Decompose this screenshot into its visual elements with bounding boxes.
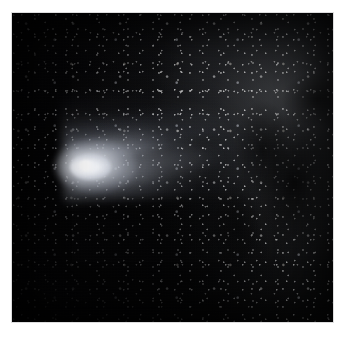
comet-nucleus: [78, 160, 95, 171]
image-canvas: [0, 0, 345, 338]
astrophotograph-plate: [12, 13, 333, 322]
